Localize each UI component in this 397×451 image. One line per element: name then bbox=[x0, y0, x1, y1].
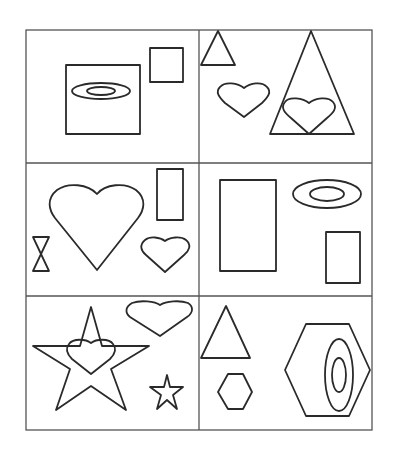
heart-in-star-shape bbox=[67, 340, 115, 374]
rectangle-large-shape bbox=[220, 180, 276, 271]
hourglass-shape bbox=[33, 237, 49, 271]
rectangle-small-shape bbox=[326, 232, 360, 283]
star-large-shape bbox=[33, 307, 149, 410]
ellipse-inner-vertical-shape bbox=[332, 358, 346, 392]
cell-row1-col2[interactable] bbox=[201, 31, 354, 134]
heart-small-shape bbox=[218, 83, 270, 117]
shape-puzzle-grid bbox=[0, 0, 397, 451]
hexagon-large-shape bbox=[285, 324, 370, 416]
triangle-shape bbox=[201, 306, 250, 358]
ellipse-inner-shape bbox=[310, 187, 344, 201]
heart-large-shape bbox=[50, 185, 144, 270]
heart-small-shape bbox=[141, 237, 189, 272]
cell-row2-col1[interactable] bbox=[33, 169, 189, 272]
square-small-shape bbox=[150, 48, 183, 82]
star-small-shape bbox=[150, 375, 183, 409]
ellipse-outer-shape bbox=[293, 180, 361, 208]
cell-row2-col2[interactable] bbox=[220, 180, 361, 283]
triangle-small-shape bbox=[201, 31, 235, 65]
cell-row3-col1[interactable] bbox=[33, 301, 192, 410]
rectangle-tall-shape bbox=[157, 169, 183, 220]
heart-top-right-shape bbox=[126, 301, 192, 336]
heart-in-triangle-shape bbox=[283, 98, 335, 134]
ellipse-inner-shape bbox=[87, 87, 115, 95]
hexagon-small-shape bbox=[218, 374, 252, 409]
ellipse-outer-shape bbox=[72, 83, 130, 99]
cell-row3-col2[interactable] bbox=[201, 306, 370, 416]
grid-lines bbox=[26, 30, 372, 430]
triangle-large-shape bbox=[270, 31, 354, 134]
cell-row1-col1[interactable] bbox=[66, 48, 183, 134]
ellipse-outer-vertical-shape bbox=[325, 339, 353, 411]
